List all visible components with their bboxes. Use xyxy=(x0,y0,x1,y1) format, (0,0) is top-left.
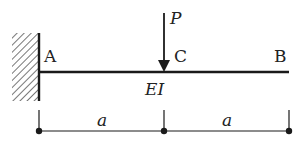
dimension-dot-a xyxy=(36,128,42,134)
load-label: P xyxy=(169,8,182,28)
beam-diagram: P A C B EI a a xyxy=(0,0,304,145)
point-b-label: B xyxy=(274,46,287,66)
dimension-dot-c xyxy=(161,128,167,134)
span-ac-label: a xyxy=(97,110,107,130)
stiffness-label: EI xyxy=(144,79,164,99)
point-a-label: A xyxy=(43,46,57,66)
point-c-label: C xyxy=(174,46,187,66)
fixed-support-hatch xyxy=(12,33,38,101)
dimension-dot-b xyxy=(286,128,292,134)
load-arrowhead-icon xyxy=(158,60,170,72)
span-cb-label: a xyxy=(222,110,232,130)
